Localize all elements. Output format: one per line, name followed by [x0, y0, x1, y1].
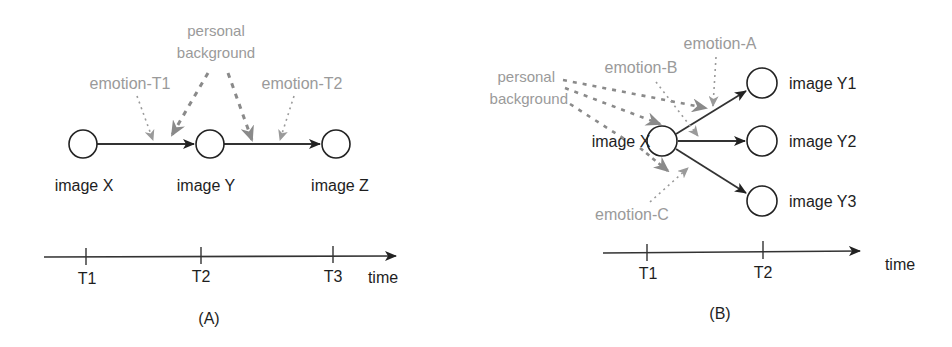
node-image-x-b	[647, 126, 677, 156]
dashed-arrow-background-to-edge1	[172, 73, 208, 135]
label-emotion-a: emotion-A	[684, 35, 757, 52]
caption-a: (A)	[198, 310, 219, 327]
node-image-y2	[747, 126, 777, 156]
label-image-z: image Z	[311, 177, 369, 194]
dotted-arrow-emotion-c	[650, 168, 688, 202]
label-emotion-t2: emotion-T2	[262, 75, 343, 92]
label-image-x: image X	[55, 177, 114, 194]
label-image-y2: image Y2	[789, 133, 856, 150]
label-personal-background-b-line2: background	[490, 90, 568, 107]
node-image-y	[196, 130, 224, 158]
diagram-canvas: image X image Y image Z personal backgro…	[0, 0, 952, 347]
label-image-y1: image Y1	[789, 75, 856, 92]
panel-b: image X image Y1 image Y2 image Y3 perso…	[490, 35, 916, 322]
tick-label-t2-b: T2	[754, 264, 773, 281]
caption-b: (B)	[709, 305, 730, 322]
label-personal-background-line2: background	[177, 44, 255, 61]
timeline-axis-a	[44, 256, 396, 257]
dotted-arrow-emotion-a	[713, 57, 716, 106]
tick-label-t2-a: T2	[192, 268, 211, 285]
node-image-y3	[747, 186, 777, 216]
dotted-arrow-emotion-t2	[280, 96, 294, 140]
dotted-arrow-emotion-t1	[137, 96, 153, 140]
node-image-z	[322, 130, 350, 158]
tick-label-t3-a: T3	[324, 268, 343, 285]
label-emotion-t1: emotion-T1	[90, 75, 171, 92]
dashed-arrow-background-to-edge2	[228, 73, 252, 140]
label-emotion-b: emotion-B	[605, 59, 678, 76]
label-image-y: image Y	[177, 177, 236, 194]
dashed-arrow-background-to-x	[565, 88, 660, 124]
timeline-label-time-b: time	[885, 256, 915, 273]
node-image-y1	[747, 68, 777, 98]
arrow-x-to-y1	[676, 91, 746, 134]
tick-label-t1-b: T1	[639, 265, 658, 282]
label-image-y3: image Y3	[789, 193, 856, 210]
panel-a: image X image Y image Z personal backgro…	[44, 22, 398, 327]
node-image-x	[69, 130, 97, 158]
label-personal-background-b-line1: personal	[497, 68, 555, 85]
label-emotion-c: emotion-C	[595, 206, 669, 223]
tick-label-t1-a: T1	[78, 270, 97, 287]
timeline-axis-b	[603, 251, 860, 253]
label-personal-background-line1: personal	[187, 22, 245, 39]
arrow-x-to-y3	[676, 149, 746, 193]
timeline-label-time-a: time	[368, 269, 398, 286]
